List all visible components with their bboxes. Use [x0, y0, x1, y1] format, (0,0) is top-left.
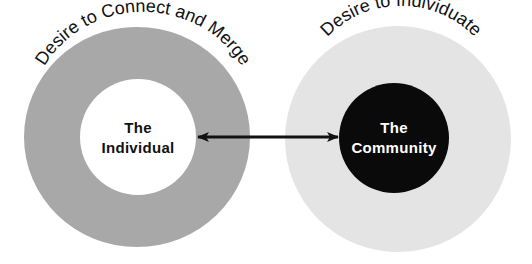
- individual-label-line2: Individual: [101, 139, 174, 156]
- relationship-diagram: Desire to Connect and Merge The Individu…: [0, 0, 532, 264]
- individual-group: Desire to Connect and Merge The Individu…: [24, 0, 255, 247]
- community-label-line1: The: [380, 119, 408, 136]
- individual-label-line1: The: [124, 119, 152, 136]
- community-label-line2: Community: [351, 139, 437, 156]
- community-group: Desire to Individuate The Community: [285, 0, 511, 252]
- community-circle: [339, 83, 449, 193]
- individual-circle: [80, 79, 196, 195]
